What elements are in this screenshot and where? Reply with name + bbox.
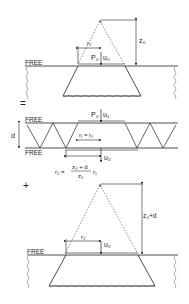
top-displacement-label: u₁ (103, 111, 110, 118)
image-depth-label: z₀+d (143, 212, 157, 219)
free-surface-label: FREE (25, 59, 43, 66)
free-top-label: FREE (25, 116, 43, 123)
free-surface-3-label: FREE (27, 248, 45, 255)
r1-label: r₁ = r₀ (79, 132, 93, 138)
equals-operator: = (20, 98, 26, 109)
source-label: s (99, 18, 102, 24)
formula-lhs: r₂ = (55, 169, 65, 175)
panel-half-space-source: s z₀ r₀ P₀ u₀ FREE (25, 18, 178, 99)
depth-label: z₀ (139, 37, 146, 44)
plus-operator: + (23, 180, 29, 191)
radius-label: r₀ (87, 40, 92, 46)
displacement-label: u₀ (103, 54, 110, 61)
panel-plate: P₀ u₁ FREE FREE d r₁ = r₀ u₂ r₂ = z₀ + d… (11, 109, 178, 179)
superposition-diagram: s z₀ r₀ P₀ u₀ FREE = P₀ u₁ FREE (0, 0, 189, 304)
image-displacement-label: u₂ (104, 241, 111, 248)
plate-load-label: P₀ (91, 111, 99, 118)
formula-numerator: z₀ + d (72, 164, 88, 170)
thickness-label: d (11, 132, 15, 139)
image-source-label: s (99, 182, 102, 188)
load-label: P₀ (91, 54, 99, 61)
bottom-displacement-label: u₂ (104, 154, 111, 161)
panel-half-space-image-source: s z₀+d r₂ u₂ FREE (27, 182, 178, 288)
r2-label: r₂ (81, 234, 86, 240)
formula-denominator: z₀ (78, 173, 84, 179)
formula-factor: r₁ (93, 169, 97, 175)
free-bottom-label: FREE (25, 149, 43, 156)
